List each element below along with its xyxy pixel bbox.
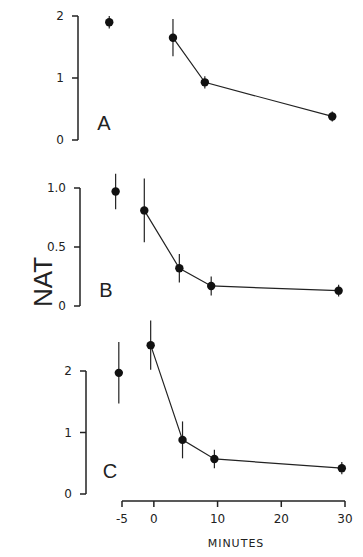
y-tick-label: 2 xyxy=(64,364,72,378)
series-line xyxy=(173,38,332,117)
data-point xyxy=(111,187,119,195)
series-line xyxy=(144,210,338,290)
x-tick-label: 10 xyxy=(210,512,225,526)
x-tick-label: 0 xyxy=(150,512,158,526)
data-point xyxy=(140,206,148,214)
y-tick-label: 0 xyxy=(64,487,72,501)
y-tick-label: 1 xyxy=(56,71,64,85)
data-point xyxy=(169,34,177,42)
data-point xyxy=(338,464,346,472)
data-point xyxy=(175,264,183,272)
data-point xyxy=(178,436,186,444)
data-point xyxy=(328,112,336,120)
panel-label: C xyxy=(103,460,117,482)
y-tick-label: 0.5 xyxy=(47,240,66,254)
data-point xyxy=(210,455,218,463)
data-point xyxy=(115,369,123,377)
data-point xyxy=(201,78,209,86)
data-point xyxy=(105,18,113,26)
y-tick-label: 1.0 xyxy=(47,181,66,195)
y-axis-label: NAT xyxy=(28,257,58,307)
x-tick-label: 30 xyxy=(337,512,352,526)
panel-label: B xyxy=(99,279,112,301)
data-point xyxy=(334,286,342,294)
chart-figure: 012A00.51.0B012CNAT-50102030MINUTES xyxy=(0,0,363,557)
x-axis-label: MINUTES xyxy=(208,537,265,550)
y-tick-label: 0 xyxy=(58,299,66,313)
x-tick-label: -5 xyxy=(116,512,128,526)
y-tick-label: 0 xyxy=(56,133,64,147)
data-point xyxy=(207,282,215,290)
series-line xyxy=(151,345,342,468)
data-point xyxy=(146,341,154,349)
y-tick-label: 2 xyxy=(56,9,64,23)
y-tick-label: 1 xyxy=(64,426,72,440)
x-tick-label: 20 xyxy=(274,512,289,526)
panel-label: A xyxy=(97,112,111,134)
